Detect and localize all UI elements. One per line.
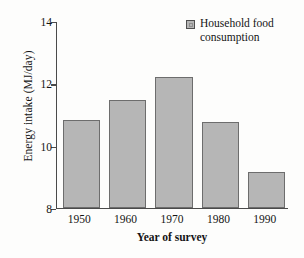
legend: Household food consumption [186,17,304,44]
x-tick-label-1950: 1950 [56,213,102,225]
x-tick-label-1960: 1960 [102,213,148,225]
bar-1950 [63,120,100,207]
x-axis-line [56,208,288,209]
plot-area: 8 10 12 14 1950 1960 1970 1980 1990 [56,22,288,209]
x-axis-title: Year of survey [56,231,288,243]
x-tick-label-1970: 1970 [149,213,195,225]
bar-1960 [109,100,146,208]
bar-1980 [202,122,239,208]
y-tick-label: 10 [41,141,53,153]
bar-1970 [155,77,192,208]
bar-chart-figure: Energy intake (MJ/day) 8 10 12 14 1950 1… [0,0,304,258]
y-axis-title: Energy intake (MJ/day) [22,16,34,196]
legend-square-icon [186,20,195,29]
y-tick-label: 14 [41,16,53,28]
x-tick-label-1990: 1990 [242,213,288,225]
y-tick-label: 12 [41,78,53,90]
y-axis-line [56,22,57,209]
y-tick-label: 8 [46,203,52,215]
legend-label: Household food consumption [200,17,304,44]
x-tick-label-1980: 1980 [195,213,241,225]
bar-1990 [248,172,285,208]
